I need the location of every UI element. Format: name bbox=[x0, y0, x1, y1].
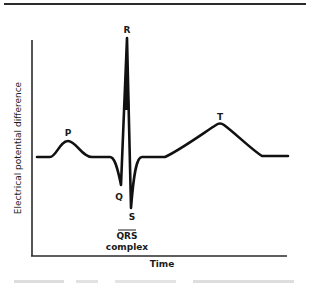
s-wave-label: S bbox=[129, 212, 135, 222]
x-axis-label: Time bbox=[150, 259, 175, 269]
qrs-complex-label: complex bbox=[106, 242, 149, 252]
y-axis-label: Electrical potential difference bbox=[13, 81, 23, 214]
q-wave-label: Q bbox=[115, 192, 123, 202]
p-wave-label: P bbox=[65, 128, 72, 138]
r-wave-label: R bbox=[124, 25, 131, 35]
cut-off-caption bbox=[14, 280, 294, 283]
qrs-label: QRS bbox=[116, 231, 137, 241]
ecg-diagram: Electrical potential difference Time P Q… bbox=[0, 0, 317, 285]
t-wave-label: T bbox=[217, 112, 224, 122]
ecg-trace bbox=[37, 38, 288, 208]
